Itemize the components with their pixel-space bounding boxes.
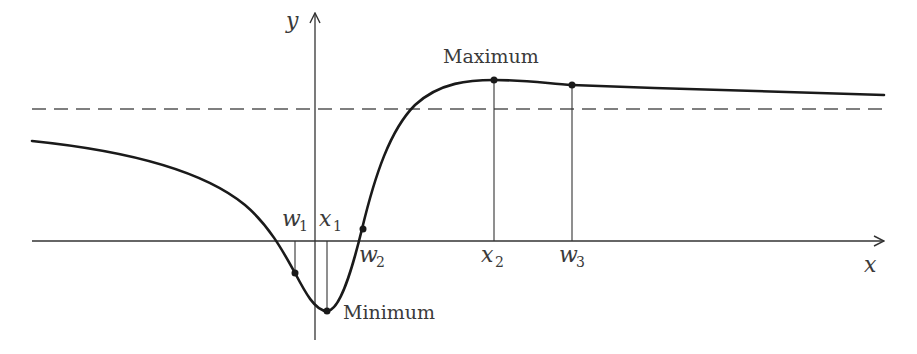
w3-point [569,82,576,89]
svg-text:2: 2 [495,254,504,270]
maximum-point [491,77,498,84]
minimum-label: Minimum [343,301,435,323]
svg-text:1: 1 [299,218,308,234]
w1-point [292,270,299,277]
curve-diagram: y x Maximum Minimum w 1 x 1 w 2 x 2 w 3 [0,0,917,354]
w2-label: w 2 [359,242,385,270]
minimum-point [324,308,331,315]
svg-text:x: x [319,206,332,231]
svg-text:x: x [481,242,494,267]
w2-point [360,226,367,233]
svg-text:2: 2 [376,254,385,270]
function-curve [32,80,884,311]
maximum-label: Maximum [443,45,539,67]
w3-label: w 3 [559,242,585,270]
x-axis-label: x [864,252,877,277]
svg-text:3: 3 [576,254,585,270]
x2-label: x 2 [481,242,504,270]
svg-text:1: 1 [333,218,342,234]
y-axis-label: y [285,8,299,33]
w1-label: w 1 [282,206,308,234]
x1-label: x 1 [319,206,342,234]
